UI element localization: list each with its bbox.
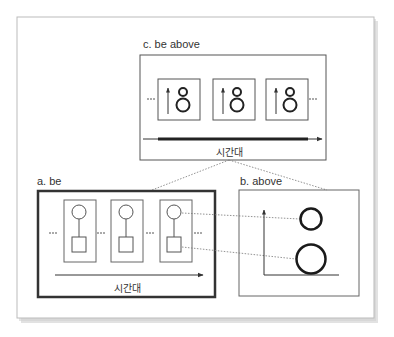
diagram-canvas [0,0,394,337]
panel-c-label: c. be above [143,38,200,50]
panel-c-timeline-label: 시간대 [216,144,243,159]
panel-a-label: a. be [37,175,61,187]
panel-a-timeline-label: 시간대 [114,280,141,295]
panel-b-label: b. above [240,175,282,187]
outer-frame [17,17,378,323]
diagram-figure: c. be above 시간대 a. be 시간대 b. above [0,0,394,337]
